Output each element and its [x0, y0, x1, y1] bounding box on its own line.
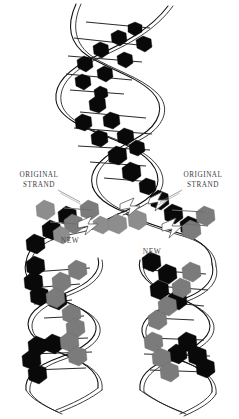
label-original-strand-right-line2: STRAND [187, 181, 219, 189]
label-original-strand-right-line1: ORIGINAL [183, 171, 222, 179]
label-new-left: NEW [61, 236, 79, 245]
label-new-right: NEW [143, 247, 161, 256]
label-original-strand-left-line2: STRAND [23, 181, 55, 189]
dna-replication-illustration: ORIGINAL STRAND ORIGINAL STRAND NEW NEW [0, 0, 239, 419]
label-original-strand-left-line1: ORIGINAL [19, 171, 58, 179]
dna-replication-figure: ORIGINAL STRAND ORIGINAL STRAND NEW NEW [0, 0, 239, 419]
